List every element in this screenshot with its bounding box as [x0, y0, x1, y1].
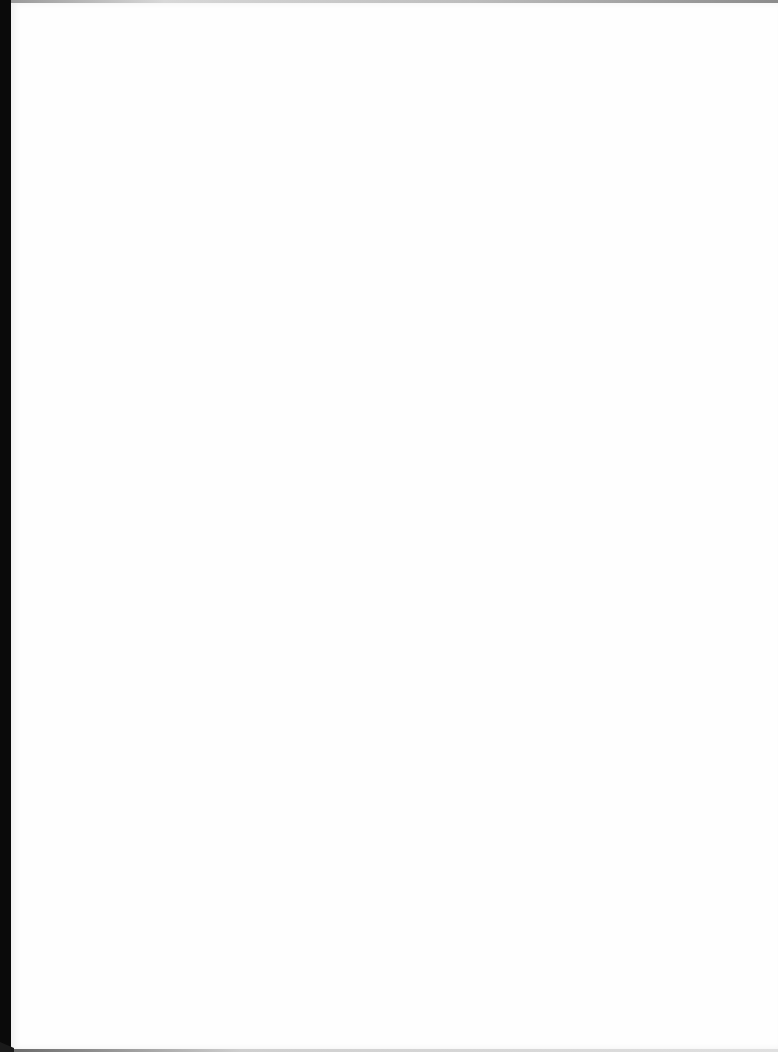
- blank-page: [11, 3, 778, 1049]
- scan-left-border: [0, 0, 11, 1052]
